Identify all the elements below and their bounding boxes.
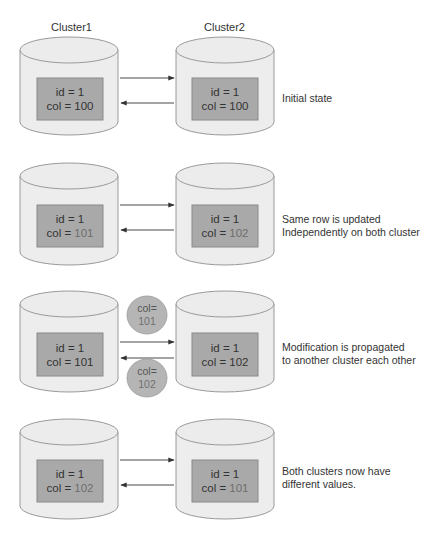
id-line: id = 1 bbox=[37, 85, 103, 99]
col-line: col = 100 bbox=[37, 99, 103, 113]
id-line: id = 1 bbox=[192, 467, 258, 481]
updated-value: 102 bbox=[74, 482, 93, 494]
row1-note: Initial state bbox=[282, 92, 332, 105]
cluster2-header: Cluster2 bbox=[204, 21, 245, 33]
col-line: col = 102 bbox=[192, 355, 258, 369]
bubble-col-102-label: col= 102 bbox=[127, 365, 167, 391]
id-line: id = 1 bbox=[192, 341, 258, 355]
col-line: col = 100 bbox=[192, 99, 258, 113]
id-line: id = 1 bbox=[37, 467, 103, 481]
cluster1-header: Cluster1 bbox=[51, 21, 92, 33]
row4-cluster2-record: id = 1 col = 101 bbox=[192, 467, 258, 495]
updated-value: 102 bbox=[229, 227, 248, 239]
bubble-col-101-label: col= 101 bbox=[127, 302, 167, 328]
row3-cluster2-record: id = 1 col = 102 bbox=[192, 341, 258, 369]
id-line: id = 1 bbox=[192, 212, 258, 226]
row2-cluster1-record: id = 1 col = 101 bbox=[37, 212, 103, 240]
col-line: col = 101 bbox=[37, 226, 103, 240]
row2-cluster2-record: id = 1 col = 102 bbox=[192, 212, 258, 240]
updated-value: 101 bbox=[74, 227, 93, 239]
row1-cluster2-record: id = 1 col = 100 bbox=[192, 85, 258, 113]
row4-cluster1-record: id = 1 col = 102 bbox=[37, 467, 103, 495]
col-line: col = 101 bbox=[192, 481, 258, 495]
id-line: id = 1 bbox=[192, 85, 258, 99]
row4-note: Both clusters now have different values. bbox=[282, 465, 391, 491]
col-line: col = 101 bbox=[37, 355, 103, 369]
col-line: col = 102 bbox=[192, 226, 258, 240]
id-line: id = 1 bbox=[37, 341, 103, 355]
row3-note: Modification is propagated to another cl… bbox=[282, 341, 416, 367]
row3-cluster1-record: id = 1 col = 101 bbox=[37, 341, 103, 369]
id-line: id = 1 bbox=[37, 212, 103, 226]
col-line: col = 102 bbox=[37, 481, 103, 495]
row2-note: Same row is updated Independently on bot… bbox=[282, 213, 420, 239]
row1-cluster1-record: id = 1 col = 100 bbox=[37, 85, 103, 113]
diagram-canvas bbox=[0, 0, 435, 538]
updated-value: 101 bbox=[229, 482, 248, 494]
